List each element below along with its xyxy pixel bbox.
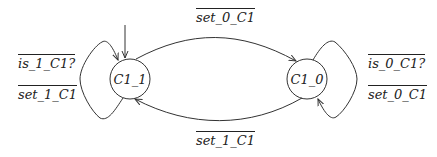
- loop-label-right-1: is_0_C1?: [368, 54, 425, 71]
- edge-label-bottom: set_1_C1: [196, 131, 255, 148]
- edge-c1-1-to-c1-0: [136, 37, 296, 61]
- state-label-c1-0: C1_0: [291, 72, 324, 87]
- loop-label-right-2: set_0_C1: [368, 85, 427, 102]
- loop-label-left-1: is_1_C1?: [18, 54, 75, 71]
- loop-label-left-2: set_1_C1: [18, 85, 77, 102]
- edge-label-top: set_0_C1: [196, 8, 255, 25]
- state-label-c1-1: C1_1: [114, 72, 147, 87]
- edge-c1-0-to-c1-1: [135, 98, 302, 121]
